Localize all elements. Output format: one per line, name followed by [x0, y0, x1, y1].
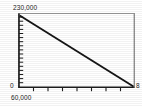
chart-canvas: [0, 0, 142, 106]
chart-figure: 230,000 0 60,000 8: [0, 0, 142, 106]
